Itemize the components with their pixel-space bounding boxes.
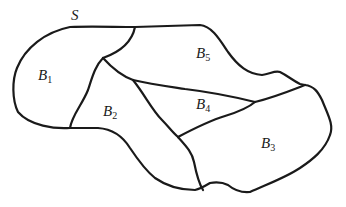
edge-b4-b5 xyxy=(133,80,305,102)
set-label-s: S xyxy=(71,8,79,23)
region-label-b3-sub: 3 xyxy=(270,142,275,153)
edge-b2-b4 xyxy=(133,80,178,137)
region-label-b4: B4 xyxy=(196,97,210,114)
region-label-b2-main: B xyxy=(103,103,112,119)
region-label-b1-sub: 1 xyxy=(47,74,52,85)
region-label-b3-main: B xyxy=(261,135,270,151)
region-label-b1-main: B xyxy=(38,67,47,83)
edge-b1-b5 xyxy=(103,27,135,58)
region-label-b1: B1 xyxy=(38,68,52,85)
outer-boundary-s xyxy=(13,25,331,192)
region-label-b2-sub: 2 xyxy=(112,110,117,121)
region-label-b5-sub: 5 xyxy=(205,52,210,63)
region-label-b2: B2 xyxy=(103,104,117,121)
partition-diagram xyxy=(0,0,346,207)
edge-b2-b3 xyxy=(178,137,203,190)
region-label-b4-sub: 4 xyxy=(205,103,210,114)
edge-b1-b2 xyxy=(70,58,103,128)
edge-b2-b5 xyxy=(103,58,133,80)
region-label-b4-main: B xyxy=(196,96,205,112)
region-label-b5: B5 xyxy=(196,46,210,63)
edge-b3-b4 xyxy=(178,102,255,137)
region-label-b5-main: B xyxy=(196,45,205,61)
region-label-b3: B3 xyxy=(261,136,275,153)
